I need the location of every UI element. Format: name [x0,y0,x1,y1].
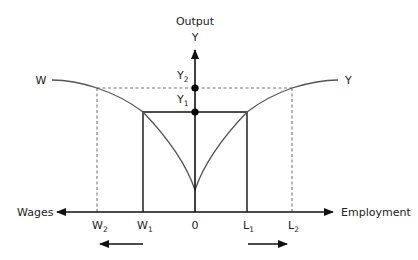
y2-point [191,84,198,91]
y-curve [195,80,338,190]
y1-label: Y1 [176,93,189,108]
l2-label: L2 [288,219,299,234]
l1-label: L1 [243,219,254,234]
w2-label: W2 [92,219,108,234]
y1-point [191,108,198,115]
w-curve-label: W [36,74,47,87]
origin-label: 0 [192,219,199,232]
w-curve [52,80,195,190]
diagram-canvas: Output Y W Y Y2 Y1 Wages Employment W2 W… [0,0,418,260]
y-curve-label: Y [344,74,352,87]
wages-axis-label: Wages [17,206,54,219]
output-axis-symbol: Y [191,31,199,44]
employment-axis-label: Employment [341,206,411,219]
w1-label: W1 [137,219,153,234]
output-axis-title: Output [176,15,215,28]
y2-label: Y2 [176,69,189,84]
